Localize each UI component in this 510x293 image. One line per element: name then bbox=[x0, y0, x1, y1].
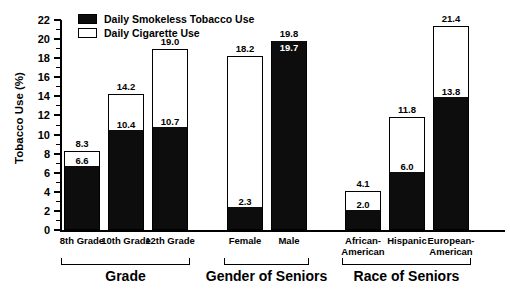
bar-segment-smokeless bbox=[228, 207, 262, 229]
y-axis-minor-tick bbox=[56, 29, 61, 30]
legend-swatch-smokeless-icon bbox=[78, 14, 97, 24]
bar-hispanic bbox=[389, 117, 425, 230]
bar-segment-smokeless bbox=[390, 172, 424, 229]
x-axis-line bbox=[60, 230, 505, 232]
y-axis-tick bbox=[54, 57, 61, 59]
y-axis-tick-label: 8 bbox=[24, 149, 50, 159]
legend-label-smokeless: Daily Smokeless Tobacco Use bbox=[104, 13, 254, 25]
bar-value-smokeless: 10.4 bbox=[108, 120, 144, 130]
bar-value-total: 14.2 bbox=[108, 82, 144, 92]
bar-value-total: 21.4 bbox=[433, 14, 469, 24]
bar-segment-smokeless bbox=[272, 41, 306, 229]
group-bracket bbox=[342, 258, 471, 265]
y-axis-minor-tick bbox=[56, 125, 61, 126]
bar-male bbox=[271, 41, 307, 230]
bar-value-smokeless: 6.0 bbox=[389, 162, 425, 172]
y-axis-tick-label: 22 bbox=[24, 15, 50, 25]
legend-item-smokeless: Daily Smokeless Tobacco Use bbox=[78, 12, 254, 25]
category-label: Male bbox=[260, 236, 318, 247]
bar-value-smokeless: 2.3 bbox=[227, 197, 263, 207]
chart-root: Daily Smokeless Tobacco Use Daily Cigare… bbox=[0, 0, 510, 293]
y-axis-tick-label: 0 bbox=[24, 225, 50, 235]
bar-segment-smokeless bbox=[65, 166, 99, 229]
bar-value-smokeless: 19.7 bbox=[271, 43, 307, 53]
y-axis-minor-tick bbox=[56, 201, 61, 202]
bar-value-smokeless: 13.8 bbox=[433, 87, 469, 97]
bar-segment-smokeless bbox=[153, 127, 187, 229]
y-axis-tick-label: 2 bbox=[24, 206, 50, 216]
bar-value-smokeless: 6.6 bbox=[64, 156, 100, 166]
y-axis-tick-label: 6 bbox=[24, 168, 50, 178]
bar-african--american bbox=[345, 191, 381, 230]
bar-value-smokeless: 10.7 bbox=[152, 117, 188, 127]
bar-segment-smokeless bbox=[434, 97, 468, 229]
y-axis-tick-label: 16 bbox=[24, 72, 50, 82]
category-label: 12th Grade bbox=[141, 236, 199, 247]
bar-value-total: 4.1 bbox=[345, 179, 381, 189]
y-axis-minor-tick bbox=[56, 220, 61, 221]
y-axis-tick bbox=[54, 134, 61, 136]
bar-value-smokeless: 2.0 bbox=[345, 200, 381, 210]
bar-value-total: 8.3 bbox=[64, 139, 100, 149]
y-axis-minor-tick bbox=[56, 144, 61, 145]
y-axis-tick bbox=[54, 76, 61, 78]
bar-value-total: 18.2 bbox=[227, 44, 263, 54]
group-label: Race of Seniors bbox=[302, 268, 510, 284]
y-axis-tick bbox=[54, 172, 61, 174]
y-axis-tick bbox=[54, 114, 61, 116]
y-axis-tick-label: 10 bbox=[24, 130, 50, 140]
bar-value-total: 19.0 bbox=[152, 37, 188, 47]
group-bracket bbox=[61, 258, 190, 265]
y-axis-tick bbox=[54, 95, 61, 97]
y-axis-tick bbox=[54, 153, 61, 155]
y-axis-tick-label: 4 bbox=[24, 187, 50, 197]
category-label: European- American bbox=[422, 236, 480, 257]
y-axis-tick-label: 12 bbox=[24, 110, 50, 120]
y-axis-minor-tick bbox=[56, 182, 61, 183]
bar-12th-grade bbox=[152, 49, 188, 230]
y-axis-minor-tick bbox=[56, 105, 61, 106]
bar-segment-smokeless bbox=[346, 210, 380, 229]
bar-value-total: 11.8 bbox=[389, 105, 425, 115]
group-bracket bbox=[224, 258, 309, 265]
y-axis-tick bbox=[54, 191, 61, 193]
y-axis-minor-tick bbox=[56, 86, 61, 87]
y-axis-tick-label: 20 bbox=[24, 34, 50, 44]
y-axis-minor-tick bbox=[56, 163, 61, 164]
y-axis-tick-label: 18 bbox=[24, 53, 50, 63]
y-axis-tick-label: 14 bbox=[24, 91, 50, 101]
y-axis-minor-tick bbox=[56, 67, 61, 68]
legend-swatch-cigarette-icon bbox=[78, 28, 97, 38]
y-axis-tick bbox=[54, 210, 61, 212]
bar-10th-grade bbox=[108, 94, 144, 230]
bar-segment-smokeless bbox=[109, 130, 143, 229]
y-axis-tick bbox=[54, 19, 61, 21]
bar-european--american bbox=[433, 26, 469, 230]
y-axis-minor-tick bbox=[56, 48, 61, 49]
y-axis-tick bbox=[54, 38, 61, 40]
bar-value-total: 19.8 bbox=[271, 29, 307, 39]
